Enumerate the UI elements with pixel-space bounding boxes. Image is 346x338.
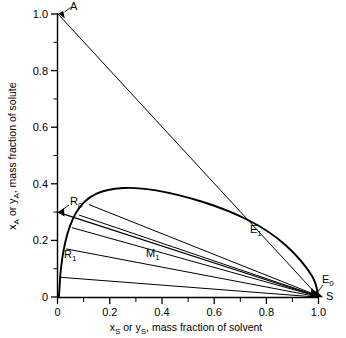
leader-R0 <box>64 205 70 209</box>
point-label-R0-sub: 0 <box>78 201 83 210</box>
point-label-R1-base: R <box>64 248 72 260</box>
point-label-E0: E0 <box>322 273 334 288</box>
x-tick-label-04: 0.4 <box>154 306 169 318</box>
x-axis-tick-labels: 0 0.2 0.4 0.6 0.8 1.0 <box>54 306 326 318</box>
y-axis-title-conj: or <box>6 204 18 219</box>
point-label-M1-sub: 1 <box>155 253 160 262</box>
point-label-A: A <box>70 0 78 12</box>
leader-E0 <box>318 285 323 292</box>
y-tick-label-04: 0.4 <box>33 178 48 190</box>
point-label-M1: M1 <box>146 247 160 262</box>
y-tick-label-0: 0 <box>42 291 48 303</box>
extraction-phase-diagram-figure: 1.0 0.8 0.6 0.4 0.2 0 0 0.2 0.4 0.6 0.8 … <box>0 0 346 338</box>
point-label-R0-base: R <box>70 195 78 207</box>
point-label-E1-base: E <box>250 223 257 235</box>
x-tick-label-1: 1.0 <box>311 306 326 318</box>
x-tick-label-0: 0 <box>54 306 60 318</box>
y-tick-label-1: 1.0 <box>33 8 48 20</box>
tie-lines-group <box>59 205 318 298</box>
y-tick-label-02: 0.2 <box>33 234 48 246</box>
x-tick-label-02: 0.2 <box>102 306 117 318</box>
x-axis-title-conj: or <box>120 321 135 333</box>
point-label-E1: E1 <box>250 223 262 238</box>
x-axis-title: xS or yS, mass fraction of solvent <box>110 321 263 336</box>
x-tick-label-06: 0.6 <box>207 306 222 318</box>
point-label-R1-sub: 1 <box>72 254 77 263</box>
y-tick-label-06: 0.6 <box>33 121 48 133</box>
y-axis-title-rest: , mass fraction of solute <box>6 82 18 193</box>
tie-line-3 <box>72 228 319 297</box>
label-leader-lines <box>64 8 324 292</box>
point-label-E0-sub: 0 <box>329 279 334 288</box>
point-label-S: S <box>326 290 333 302</box>
point-label-R0: R0 <box>70 195 83 210</box>
point-label-E0-base: E <box>322 273 329 285</box>
x-axis-title-rest: , mass fraction of solvent <box>146 321 262 333</box>
point-marker-R0 <box>58 208 65 216</box>
y-axis-title: xA or yA, mass fraction of solute <box>6 82 21 229</box>
y-axis-tick-labels: 1.0 0.8 0.6 0.4 0.2 0 <box>33 8 48 303</box>
y-tick-label-08: 0.8 <box>33 65 48 77</box>
point-label-E1-sub: 1 <box>257 229 262 238</box>
tie-line-4 <box>79 215 319 296</box>
x-tick-label-08: 0.8 <box>259 306 274 318</box>
plot-canvas: 1.0 0.8 0.6 0.4 0.2 0 0 0.2 0.4 0.6 0.8 … <box>0 0 346 338</box>
point-label-M1-base: M <box>146 247 155 259</box>
